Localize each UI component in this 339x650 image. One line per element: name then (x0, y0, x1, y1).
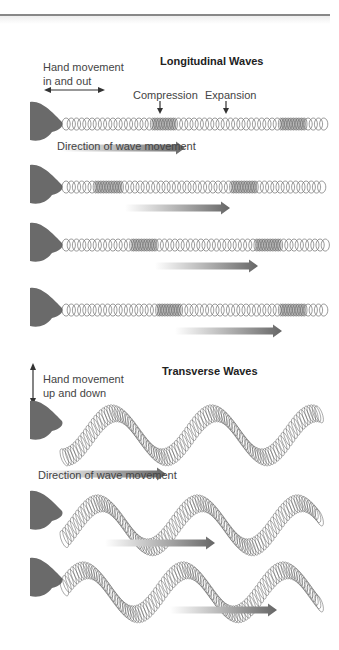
hand-icon (30, 165, 63, 204)
longitudinal-coil (62, 239, 329, 251)
expansion-label: Expansion (205, 88, 256, 102)
longitudinal-hand-label-1: Hand movement (43, 60, 124, 74)
compression-label: Compression (133, 88, 198, 102)
direction-arrow-icon (170, 604, 277, 617)
hand-icon (30, 558, 63, 597)
longitudinal-title: Longitudinal Waves (160, 55, 264, 67)
transverse-coil (60, 405, 323, 466)
hand-icon (30, 288, 63, 327)
longitudinal-coil (62, 181, 326, 193)
transverse-direction-label: Direction of wave movement (38, 468, 177, 482)
longitudinal-direction-label: Direction of wave movement (57, 139, 196, 153)
hand-icon (30, 491, 63, 530)
transverse-title: Transverse Waves (162, 365, 258, 377)
hand-icon (30, 102, 63, 141)
direction-arrow-icon (155, 260, 258, 273)
transverse-coil (60, 562, 323, 623)
transverse-coil (60, 495, 323, 556)
transverse-hand-label-1: Hand movement (43, 372, 124, 386)
transverse-hand-label-2: up and down (43, 386, 106, 400)
longitudinal-coil (62, 304, 328, 316)
direction-arrow-icon (125, 202, 230, 215)
hand-icon (30, 223, 63, 262)
hand-icon (30, 401, 63, 440)
direction-arrow-icon (175, 325, 282, 338)
direction-arrow-icon (105, 537, 215, 550)
longitudinal-hand-label-2: in and out (43, 74, 91, 88)
longitudinal-coil (62, 118, 328, 130)
